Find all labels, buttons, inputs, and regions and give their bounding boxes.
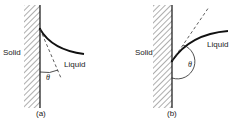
solid-wall-hatching — [24, 5, 40, 108]
panel-caption: (a) — [36, 109, 46, 118]
solid-label: Solid — [135, 48, 153, 57]
contact-angle-diagram: Solid Liquid θ (a) Solid Liquid θ (b) — [0, 0, 236, 120]
solid-label: Solid — [3, 48, 21, 57]
liquid-meniscus-curve — [40, 29, 84, 54]
theta-label: θ — [188, 60, 192, 69]
theta-label: θ — [46, 73, 50, 82]
liquid-label: Liquid — [64, 60, 85, 69]
tangent-dashed-line — [40, 29, 61, 78]
solid-wall-hatching — [153, 5, 172, 108]
panel-a: Solid Liquid θ (a) — [3, 5, 85, 118]
panel-caption: (b) — [167, 109, 177, 118]
panel-b: Solid Liquid θ (b) — [135, 5, 228, 118]
liquid-label: Liquid — [207, 40, 228, 49]
